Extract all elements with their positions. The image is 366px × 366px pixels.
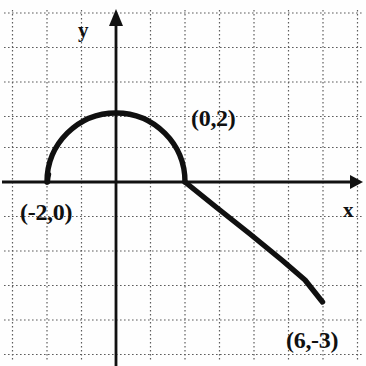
point-label-0-2: (0,2) — [191, 106, 236, 130]
graph-figure: y x (-2,0) (0,2) (6,-3) — [0, 0, 366, 366]
y-axis-label: y — [78, 20, 89, 41]
point-label-neg2-0: (-2,0) — [20, 200, 72, 224]
x-axis-label: x — [343, 200, 354, 221]
point-label-6-neg3: (6,-3) — [286, 328, 338, 352]
graph-canvas — [0, 0, 366, 366]
